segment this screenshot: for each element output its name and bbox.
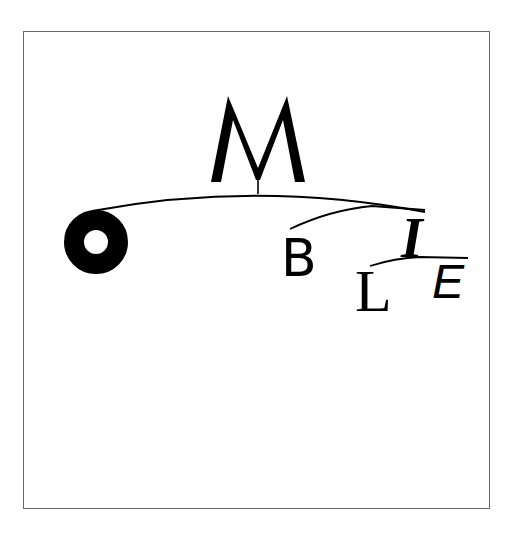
letter-i: I <box>400 207 425 269</box>
letter-l: L <box>355 258 392 324</box>
letter-o-ring <box>74 220 118 264</box>
letter-b: B <box>281 228 317 288</box>
letter-m <box>211 96 305 182</box>
mobile-artwork: B I L E <box>0 0 516 547</box>
letter-e: E <box>432 255 465 308</box>
main-wire-arc <box>92 196 425 212</box>
